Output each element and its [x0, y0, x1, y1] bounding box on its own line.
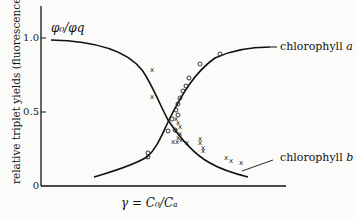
tick-label-0: 0 [33, 180, 39, 191]
chlorophyll-a-curve [94, 47, 270, 177]
y-axis-label: relative triplet yields (fluorescence) [10, 0, 22, 184]
svg-text:x: x [150, 93, 154, 101]
svg-text:x: x [229, 157, 233, 165]
chart: 1.0 0.5 0 relative triplet yields (fluor… [0, 0, 357, 218]
svg-text:x: x [224, 154, 228, 162]
chl-b-markers: x x x x x x x x x x x x x x x x x x x [150, 66, 243, 167]
tick-label-1-0: 1.0 [23, 32, 39, 43]
x-axis-label: γ = C₀/Cₐ [121, 196, 178, 210]
svg-text:x: x [185, 139, 189, 147]
chlorophyll-b-label: chlorophyll b [280, 151, 353, 164]
svg-text:x: x [201, 147, 205, 155]
phi-label: φ₀/φq [51, 21, 85, 35]
svg-text:x: x [239, 159, 243, 167]
svg-text:x: x [150, 66, 154, 74]
svg-text:x: x [179, 136, 183, 144]
chlorophyll-a-label: chlorophyll a [280, 40, 353, 53]
chl-b-leader [242, 160, 273, 171]
tick-label-0-5: 0.5 [23, 106, 39, 117]
